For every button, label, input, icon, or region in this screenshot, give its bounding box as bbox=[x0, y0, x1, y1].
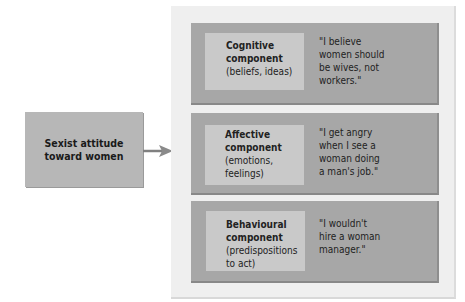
behavioural-quote: "I wouldn't hire a woman manager." bbox=[319, 217, 429, 256]
source-label-line2: toward women bbox=[44, 150, 123, 162]
arrow-right-icon bbox=[143, 145, 173, 157]
affective-quote: "I get angry when I see a woman doing a … bbox=[319, 126, 429, 178]
cognitive-quote: "I believe women should be wives, not wo… bbox=[319, 35, 429, 87]
affective-title-2: component bbox=[225, 141, 304, 154]
sexist-attitude-box: Sexist attitude toward women bbox=[25, 112, 143, 187]
affective-title: Affective bbox=[225, 128, 304, 141]
behavioural-subtitle-2: to act) bbox=[226, 257, 305, 270]
behavioural-title: Behavioural bbox=[226, 218, 305, 231]
source-label-line1: Sexist attitude bbox=[44, 137, 123, 149]
components-panel: Cognitive component (beliefs, ideas) "I … bbox=[171, 6, 456, 299]
affective-label-box: Affective component (emotions, feelings) bbox=[205, 125, 304, 185]
cognitive-title-2: component bbox=[226, 52, 304, 65]
behavioural-label-box: Behavioural component (predispositions t… bbox=[206, 211, 305, 271]
affective-component-box: Affective component (emotions, feelings)… bbox=[191, 113, 439, 195]
affective-subtitle: (emotions, bbox=[225, 154, 304, 167]
behavioural-title-2: component bbox=[226, 231, 305, 244]
cognitive-title: Cognitive bbox=[226, 39, 304, 52]
behavioural-component-box: Behavioural component (predispositions t… bbox=[191, 201, 439, 283]
behavioural-subtitle: (predispositions bbox=[226, 244, 305, 257]
cognitive-component-box: Cognitive component (beliefs, ideas) "I … bbox=[191, 23, 439, 105]
affective-subtitle-2: feelings) bbox=[225, 167, 304, 180]
cognitive-subtitle: (beliefs, ideas) bbox=[226, 65, 304, 78]
cognitive-label-box: Cognitive component (beliefs, ideas) bbox=[205, 33, 304, 90]
